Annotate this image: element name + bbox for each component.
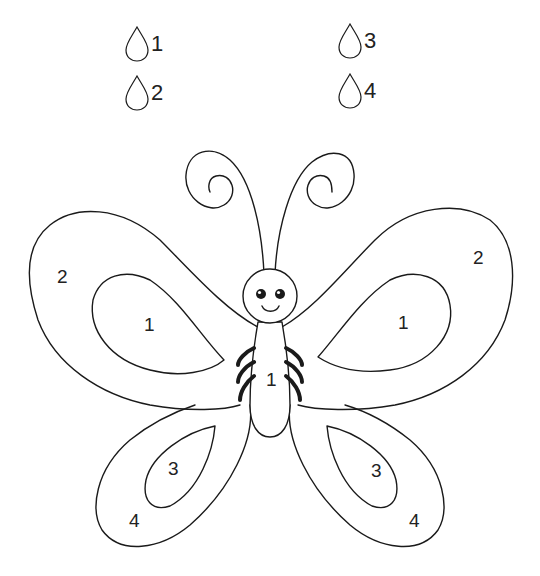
left-lower-wing-inner[interactable] bbox=[145, 426, 215, 508]
label-body: 1 bbox=[266, 369, 277, 390]
label-left-lower-outer: 4 bbox=[129, 510, 140, 531]
left-eye-icon bbox=[256, 289, 266, 299]
left-upper-wing[interactable] bbox=[29, 211, 258, 409]
left-eye-highlight bbox=[258, 291, 261, 294]
label-right-lower-outer: 4 bbox=[409, 510, 420, 531]
label-left-upper-outer: 2 bbox=[57, 266, 68, 287]
right-lower-wing[interactable] bbox=[289, 405, 444, 546]
left-antenna bbox=[186, 151, 264, 274]
label-left-upper-inner: 1 bbox=[144, 314, 155, 335]
right-lower-wing-inner[interactable] bbox=[327, 426, 397, 508]
right-eye-highlight bbox=[277, 291, 280, 294]
right-upper-wing-inner[interactable] bbox=[318, 274, 451, 371]
butterfly-drawing: 2 1 2 1 1 3 4 3 4 bbox=[0, 0, 540, 576]
left-upper-wing-inner[interactable] bbox=[92, 274, 224, 373]
label-right-upper-outer: 2 bbox=[473, 247, 484, 268]
right-antenna bbox=[275, 153, 354, 274]
label-right-upper-inner: 1 bbox=[398, 312, 409, 333]
right-upper-wing[interactable] bbox=[282, 208, 513, 409]
label-right-lower-inner: 3 bbox=[371, 460, 382, 481]
right-eye-icon bbox=[275, 289, 285, 299]
head[interactable] bbox=[243, 269, 297, 323]
label-left-lower-inner: 3 bbox=[168, 458, 179, 479]
